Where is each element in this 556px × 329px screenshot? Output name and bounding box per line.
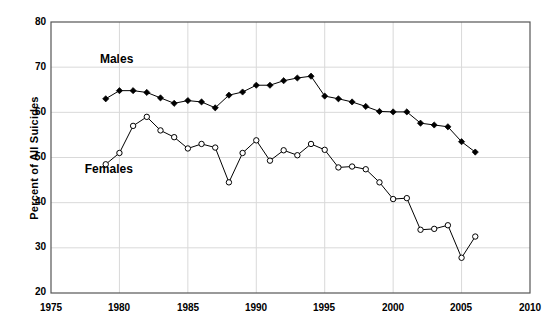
data-point-males — [198, 99, 204, 105]
data-point-males — [431, 122, 437, 128]
data-point-males — [376, 108, 382, 114]
data-point-females — [171, 134, 176, 139]
data-point-females — [473, 234, 478, 239]
data-point-females — [281, 148, 286, 153]
data-point-females — [418, 227, 423, 232]
data-point-females — [308, 141, 313, 146]
data-point-females — [349, 164, 354, 169]
data-point-males — [363, 103, 369, 109]
data-point-females — [363, 167, 368, 172]
data-point-females — [336, 165, 341, 170]
data-point-females — [144, 114, 149, 119]
data-point-males — [185, 97, 191, 103]
data-point-males — [157, 95, 163, 101]
data-point-females — [267, 158, 272, 163]
series-line-females — [106, 117, 476, 258]
data-point-males — [294, 75, 300, 81]
data-point-males — [349, 99, 355, 105]
data-point-males — [253, 82, 259, 88]
data-point-males — [116, 88, 122, 94]
data-point-females — [432, 226, 437, 231]
data-point-females — [213, 145, 218, 150]
data-point-females — [158, 128, 163, 133]
data-point-females — [130, 123, 135, 128]
data-point-females — [404, 195, 409, 200]
data-point-females — [199, 141, 204, 146]
data-point-females — [117, 150, 122, 155]
data-point-males — [322, 93, 328, 99]
data-point-females — [226, 180, 231, 185]
data-point-males — [335, 96, 341, 102]
data-point-males — [130, 88, 136, 94]
data-point-males — [240, 89, 246, 95]
chart-container: Percent of All Suicides 80 70 60 50 40 3… — [0, 0, 556, 329]
data-point-males — [390, 109, 396, 115]
data-point-females — [295, 153, 300, 158]
data-point-females — [240, 150, 245, 155]
data-point-females — [185, 146, 190, 151]
series-line-males — [106, 76, 476, 152]
data-point-females — [322, 147, 327, 152]
data-point-females — [390, 196, 395, 201]
plot-area — [0, 0, 556, 329]
data-point-males — [267, 82, 273, 88]
data-point-females — [103, 162, 108, 167]
data-point-females — [459, 255, 464, 260]
data-point-males — [144, 89, 150, 95]
data-point-males — [308, 73, 314, 79]
data-point-males — [103, 96, 109, 102]
data-point-females — [254, 138, 259, 143]
data-point-females — [377, 180, 382, 185]
data-point-males — [171, 100, 177, 106]
data-point-females — [445, 223, 450, 228]
data-point-males — [281, 78, 287, 84]
